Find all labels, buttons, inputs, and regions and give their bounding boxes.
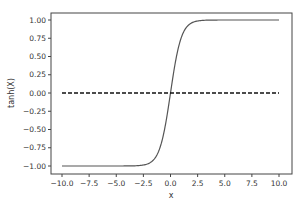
y-axis-ticks: 1.000.750.500.250.00−0.25−0.50−0.75−1.00: [23, 16, 51, 171]
x-tick-label: −2.5: [134, 179, 152, 188]
x-tick-label: −5.0: [107, 179, 125, 188]
x-tick-label: 0.0: [165, 179, 177, 188]
y-tick-label: −0.75: [23, 143, 46, 152]
x-tick-label: −7.5: [80, 179, 98, 188]
y-tick-label: 1.00: [29, 16, 46, 25]
x-tick-label: 10.0: [271, 179, 288, 188]
x-axis-ticks: −10.0−7.5−5.0−2.50.02.55.07.510.0: [51, 174, 288, 188]
y-tick-label: 0.50: [29, 52, 46, 61]
y-axis-label: tanh(X): [7, 78, 16, 108]
tanh-chart: −10.0−7.5−5.0−2.50.02.55.07.510.0 1.000.…: [0, 0, 305, 205]
x-tick-label: 2.5: [192, 179, 204, 188]
y-tick-label: 0.25: [29, 70, 46, 79]
y-tick-label: 0.00: [29, 89, 46, 98]
x-tick-label: 5.0: [219, 179, 231, 188]
x-tick-label: 7.5: [246, 179, 258, 188]
plot-area: [62, 20, 279, 166]
y-tick-label: 0.75: [29, 34, 46, 43]
x-tick-label: −10.0: [51, 179, 74, 188]
y-tick-label: −1.00: [23, 162, 46, 171]
x-axis-label: x: [169, 191, 174, 200]
y-tick-label: −0.25: [23, 107, 46, 116]
y-tick-label: −0.50: [23, 125, 46, 134]
